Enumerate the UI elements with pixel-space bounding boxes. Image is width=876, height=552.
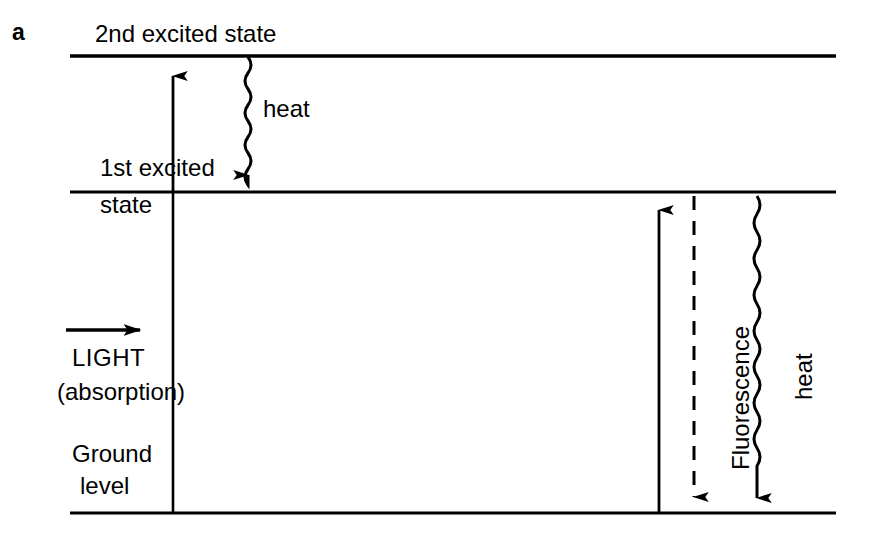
- transition-label-absorption: (absorption): [57, 379, 185, 406]
- level-label-second-excited: 2nd excited state: [95, 21, 276, 48]
- heat-top-wavy-arrow: [245, 57, 251, 185]
- transition-label-fluorescence: Fluorescence: [727, 326, 755, 470]
- transition-label-heat-top: heat: [263, 96, 310, 123]
- level-label-ground: Ground: [72, 441, 152, 468]
- energy-level-diagram-figure: a 2nd excited state 1st excited state Gr…: [0, 0, 876, 552]
- level-label-first-excited-line2: state: [100, 192, 152, 219]
- transition-label-heat-right: heat: [790, 353, 818, 400]
- level-label-ground-line2: level: [80, 473, 129, 500]
- panel-letter: a: [12, 20, 25, 46]
- transition-label-light: LIGHT: [72, 345, 145, 372]
- level-label-first-excited: 1st excited: [100, 155, 215, 182]
